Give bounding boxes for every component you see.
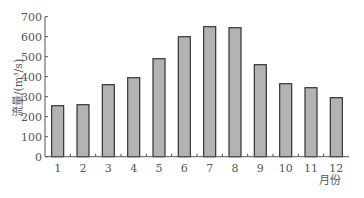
y-tick-label: 700 (21, 11, 42, 24)
x-tick-label: 6 (181, 162, 188, 175)
x-tick-label: 8 (232, 162, 239, 175)
bar (229, 28, 241, 157)
x-tick-label: 4 (130, 162, 137, 175)
bar (305, 88, 317, 157)
bars (52, 27, 343, 157)
bar (52, 106, 64, 157)
bar (280, 84, 292, 157)
y-tick-label: 600 (21, 31, 42, 44)
x-tick-label: 7 (206, 162, 213, 175)
x-tick-label: 2 (80, 162, 87, 175)
bar (77, 105, 89, 157)
y-tick-label: 0 (35, 151, 42, 164)
y-axis: 0100200300400500600700 (21, 11, 48, 164)
bar (153, 59, 165, 157)
bar (254, 65, 266, 157)
y-axis-title: 流量/(m³/s) (11, 59, 25, 117)
x-tick-label: 5 (156, 162, 163, 175)
bar (102, 85, 114, 157)
bar-chart: 0100200300400500600700 123456789101112 流… (0, 0, 364, 198)
x-tick-label: 12 (329, 162, 343, 175)
x-tick-label: 1 (54, 162, 61, 175)
x-axis-title: 月份 (319, 174, 341, 187)
bar (204, 27, 216, 157)
x-tick-label: 11 (304, 162, 318, 175)
x-tick-label: 9 (257, 162, 264, 175)
bar (128, 78, 140, 157)
y-tick-label: 100 (21, 131, 42, 144)
x-tick-label: 3 (105, 162, 112, 175)
x-tick-label: 10 (279, 162, 293, 175)
bar (330, 98, 342, 157)
x-axis: 123456789101112 (45, 154, 349, 175)
bar (178, 37, 190, 157)
